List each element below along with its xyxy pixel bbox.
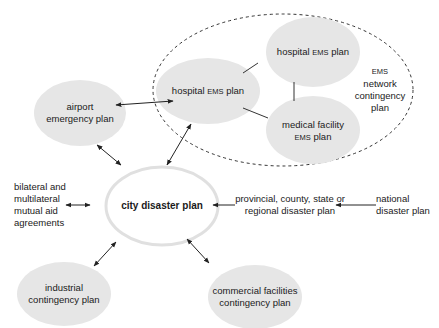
industrial-line2: contingency plan [28,294,99,306]
medical-line1: medical facility [282,119,344,131]
national-line2: disaster plan [376,205,430,217]
bilateral-line4: agreements [14,217,66,229]
arrow-hospital-city [167,124,191,165]
national-label: national disaster plan [376,193,430,217]
hospital-main-ems: EMS [207,87,223,96]
industrial-label: industrial contingency plan [28,282,99,306]
ems-network-line3: contingency [355,90,406,102]
ems-network-line4: plan [355,102,406,114]
bilateral-line3: mutual aid [14,205,66,217]
hospital-network-pre: hospital [277,46,312,57]
bilateral-line1: bilateral and [14,181,66,193]
airport-line1: airport [46,101,114,113]
hospital-network-label: hospital EMS plan [277,46,349,59]
medical-ems: EMS [295,133,311,142]
provincial-label: provincial, county, state or regional di… [235,193,345,217]
ems-network-line1: EMS [355,66,406,78]
medical-label: medical facility EMS plan [282,119,344,144]
hospital-main-pre: hospital [172,85,207,96]
airport-line2: emergency plan [46,113,114,125]
bilateral-line2: multilateral [14,193,66,205]
hospital-main-label: hospital EMS plan [172,85,244,98]
provincial-line1: provincial, county, state or [235,193,345,205]
commercial-line2: contingency plan [213,297,298,309]
provincial-line2: regional disaster plan [235,205,345,217]
national-line1: national [376,193,430,205]
industrial-line1: industrial [28,282,99,294]
arrow-city-industrial [94,242,116,266]
diagram-canvas [0,0,439,328]
commercial-line1: commercial facilities [213,285,298,297]
arrow-city-commercial [187,239,209,263]
hospital-network-ems: EMS [312,48,328,57]
medical-post: plan [311,131,332,142]
airport-label: airport emergency plan [46,101,114,125]
city-label: city disaster plan [121,200,203,212]
ems-network-line2: network [355,78,406,90]
ems-network-label: EMS network contingency plan [355,66,406,114]
bilateral-label: bilateral and multilateral mutual aid ag… [14,181,66,229]
commercial-label: commercial facilities contingency plan [213,285,298,309]
hospital-network-post: plan [329,46,350,57]
arrow-airport-city [97,145,121,165]
hospital-main-post: plan [224,85,245,96]
